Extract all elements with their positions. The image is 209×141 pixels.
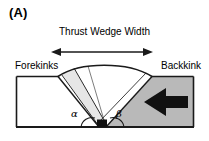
- wedge-width-arrow-head-left: [51, 48, 61, 56]
- basal-backstop-marker: [97, 120, 107, 128]
- beta-label: β: [115, 108, 122, 119]
- cross-section-drawing: α β: [0, 0, 209, 141]
- wedge-width-arrow-head-right: [143, 48, 153, 56]
- thrust-wedge-figure: (A) Thrust Wedge Width Forekinks Backkin…: [0, 0, 209, 141]
- wedge-width-arrow: [51, 48, 153, 56]
- alpha-label: α: [71, 108, 78, 119]
